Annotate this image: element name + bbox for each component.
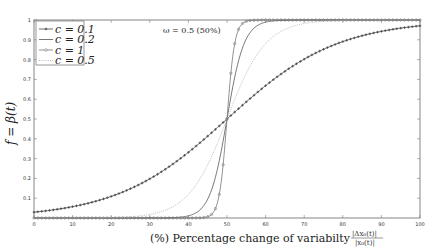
x-tick-label: 80 bbox=[340, 221, 346, 227]
y-tick-label: 0.5 bbox=[23, 116, 31, 122]
y-tick-label: 0.2 bbox=[23, 175, 31, 181]
y-tick-label: 0.7 bbox=[23, 76, 31, 82]
y-tick-label: 0.1 bbox=[23, 195, 31, 201]
x-tick-label: 90 bbox=[378, 221, 384, 227]
y-tick-label: 1 bbox=[28, 17, 31, 23]
x-tick-label: 30 bbox=[147, 221, 153, 227]
x-axis-label-numerator: |Δx₀(t)| bbox=[352, 230, 377, 238]
x-axis-label: (%) Percentage change of variabilty |Δx₀… bbox=[150, 230, 383, 247]
legend: c = 0.1c = 0.2c = 1c = 0.5 bbox=[36, 21, 95, 67]
y-tick-label: 0.4 bbox=[23, 136, 31, 142]
y-tick-label: 0.9 bbox=[23, 37, 31, 43]
x-tick-label: 0 bbox=[32, 221, 35, 227]
x-tick-label: 20 bbox=[108, 221, 114, 227]
x-tick-label: 100 bbox=[415, 221, 425, 227]
x-tick-label: 60 bbox=[262, 221, 268, 227]
y-tick-label: 0.8 bbox=[23, 57, 31, 63]
x-tick-label: 70 bbox=[301, 221, 307, 227]
x-axis-label-text: (%) Percentage change of variabilty bbox=[150, 232, 351, 245]
x-tick-label: 10 bbox=[69, 221, 75, 227]
x-tick-label: 50 bbox=[224, 221, 230, 227]
y-tick-label: 0.6 bbox=[23, 96, 31, 102]
y-axis-label: f = β(t) bbox=[4, 101, 18, 146]
legend-entry: c = 0.5 bbox=[55, 54, 95, 67]
y-tick-label: 0.3 bbox=[23, 156, 31, 162]
x-axis-label-denominator: |x₀(t)| bbox=[355, 239, 375, 247]
x-tick-label: 40 bbox=[185, 221, 191, 227]
annotation: ω = 0.5 (50%) bbox=[163, 26, 221, 35]
sigmoid-chart: 01020304050607080901000.10.20.30.40.50.6… bbox=[0, 0, 437, 250]
